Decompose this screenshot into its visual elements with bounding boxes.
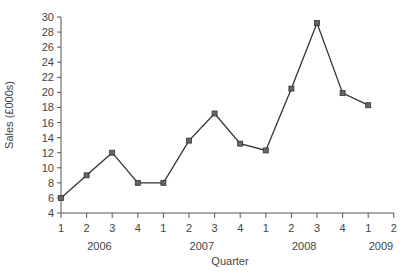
x-tick-label: 1 xyxy=(160,222,166,234)
x-tick-label: 3 xyxy=(109,222,115,234)
x-tick-label: 4 xyxy=(237,222,243,234)
y-tick-label: 8 xyxy=(48,177,54,189)
data-point-marker xyxy=(315,21,320,26)
y-tick-label: 30 xyxy=(42,11,54,23)
y-tick-label: 4 xyxy=(48,207,54,219)
year-label: 2009 xyxy=(369,240,393,252)
line-chart: 4681012141618202224262830 12341234123412… xyxy=(0,0,412,277)
y-tick-label: 14 xyxy=(42,132,54,144)
data-point-marker xyxy=(212,111,217,116)
x-tick-label: 2 xyxy=(84,222,90,234)
x-axis: 123412341234122006200720082009 xyxy=(58,213,397,252)
y-tick-label: 6 xyxy=(48,192,54,204)
year-label: 2008 xyxy=(292,240,316,252)
data-point-marker xyxy=(340,91,345,96)
y-tick-label: 10 xyxy=(42,162,54,174)
y-axis-label: Sales (£000s) xyxy=(3,81,15,149)
data-point-marker xyxy=(289,86,294,91)
x-tick-label: 3 xyxy=(314,222,320,234)
series-line xyxy=(61,23,368,198)
data-point-marker xyxy=(110,150,115,155)
y-tick-label: 18 xyxy=(42,101,54,113)
x-tick-label: 1 xyxy=(263,222,269,234)
x-axis-label: Quarter xyxy=(211,255,249,267)
x-tick-label: 1 xyxy=(365,222,371,234)
data-point-marker xyxy=(187,138,192,143)
x-tick-label: 1 xyxy=(58,222,64,234)
y-tick-label: 12 xyxy=(42,147,54,159)
x-tick-label: 4 xyxy=(135,222,141,234)
y-tick-label: 16 xyxy=(42,117,54,129)
data-point-marker xyxy=(161,180,166,185)
data-point-marker xyxy=(59,195,64,200)
data-point-marker xyxy=(84,173,89,178)
y-tick-label: 22 xyxy=(42,71,54,83)
x-tick-label: 2 xyxy=(391,222,397,234)
x-tick-label: 3 xyxy=(212,222,218,234)
data-point-marker xyxy=(135,180,140,185)
y-tick-label: 24 xyxy=(42,56,54,68)
x-tick-label: 2 xyxy=(288,222,294,234)
year-label: 2007 xyxy=(190,240,214,252)
plot-area xyxy=(59,21,371,201)
y-tick-label: 20 xyxy=(42,86,54,98)
y-tick-label: 28 xyxy=(42,26,54,38)
y-tick-label: 26 xyxy=(42,41,54,53)
data-point-marker xyxy=(366,103,371,108)
y-axis: 4681012141618202224262830 xyxy=(42,11,61,219)
year-label: 2006 xyxy=(87,240,111,252)
x-tick-label: 2 xyxy=(186,222,192,234)
x-tick-label: 4 xyxy=(340,222,346,234)
data-point-marker xyxy=(263,148,268,153)
data-point-marker xyxy=(238,141,243,146)
